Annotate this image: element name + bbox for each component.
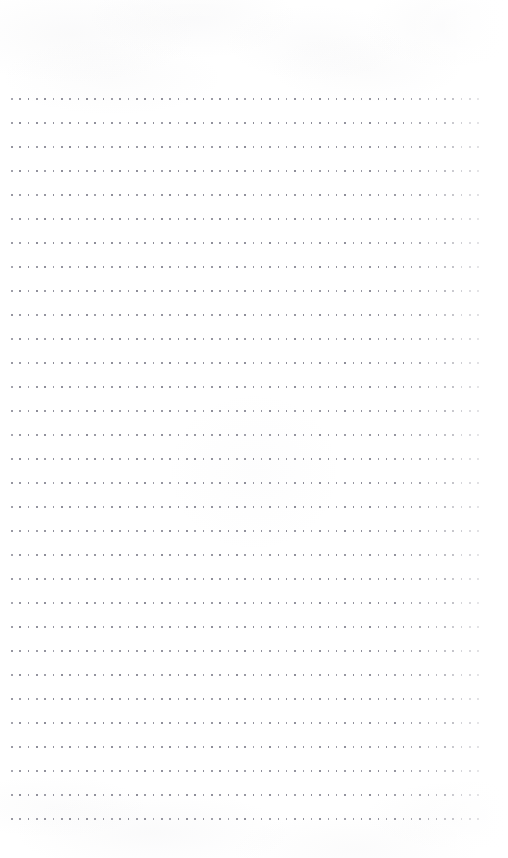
grid-dot	[61, 770, 63, 772]
left-edge-print-falloff	[0, 0, 16, 858]
grid-dot	[378, 362, 380, 364]
grid-dot	[428, 242, 430, 244]
grid-dot	[11, 218, 13, 220]
grid-dot	[444, 578, 446, 580]
grid-dot	[78, 626, 80, 628]
grid-dot	[336, 698, 338, 700]
grid-dot	[194, 242, 196, 244]
grid-dot	[328, 122, 330, 124]
grid-dot	[369, 626, 371, 628]
grid-dot	[219, 698, 221, 700]
grid-dot	[136, 410, 138, 412]
grid-dot	[428, 122, 430, 124]
grid-dot	[477, 146, 479, 148]
grid-dot	[311, 218, 313, 220]
grid-dot	[353, 266, 355, 268]
grid-dot	[286, 434, 288, 436]
grid-dot	[303, 722, 305, 724]
grid-dot	[28, 386, 30, 388]
grid-dot	[419, 338, 421, 340]
grid-dot	[61, 170, 63, 172]
grid-dot	[469, 146, 471, 148]
grid-dot	[461, 746, 463, 748]
grid-dot	[469, 818, 471, 820]
grid-dot	[53, 458, 55, 460]
grid-dot	[477, 170, 479, 172]
grid-dot	[203, 698, 205, 700]
grid-dot	[444, 386, 446, 388]
grid-dot	[94, 818, 96, 820]
grid-dot	[378, 554, 380, 556]
grid-dot	[311, 818, 313, 820]
grid-dot	[128, 818, 130, 820]
grid-dot	[469, 482, 471, 484]
grid-dot	[269, 602, 271, 604]
grid-dot	[61, 794, 63, 796]
grid-dot	[203, 554, 205, 556]
grid-dot	[119, 338, 121, 340]
grid-dot	[286, 746, 288, 748]
grid-dot	[444, 482, 446, 484]
grid-dot	[269, 770, 271, 772]
grid-dot	[111, 602, 113, 604]
grid-dot	[19, 266, 21, 268]
grid-dot	[69, 434, 71, 436]
grid-dot	[444, 338, 446, 340]
grid-dot	[161, 170, 163, 172]
grid-dot	[303, 266, 305, 268]
grid-dot	[436, 650, 438, 652]
grid-dot	[28, 722, 30, 724]
grid-dot	[361, 554, 363, 556]
grid-dot	[194, 698, 196, 700]
grid-dot	[303, 578, 305, 580]
grid-dot	[303, 506, 305, 508]
grid-dot	[452, 794, 454, 796]
grid-dot	[61, 266, 63, 268]
grid-dot	[136, 170, 138, 172]
grid-dot	[53, 338, 55, 340]
grid-dot	[236, 194, 238, 196]
grid-dot	[244, 818, 246, 820]
grid-dot	[353, 122, 355, 124]
grid-dot	[428, 674, 430, 676]
grid-dot	[461, 146, 463, 148]
grid-dot	[161, 458, 163, 460]
grid-dot	[78, 746, 80, 748]
grid-dot	[69, 674, 71, 676]
grid-dot	[269, 506, 271, 508]
grid-dot	[78, 338, 80, 340]
grid-dot	[69, 650, 71, 652]
grid-dot	[461, 98, 463, 100]
grid-dot	[436, 506, 438, 508]
grid-dot	[128, 98, 130, 100]
grid-dot	[353, 746, 355, 748]
grid-dot	[394, 338, 396, 340]
grid-dot	[369, 722, 371, 724]
grid-dot	[411, 98, 413, 100]
grid-dot	[403, 98, 405, 100]
grid-dot	[19, 458, 21, 460]
grid-dot	[44, 506, 46, 508]
grid-dot	[86, 650, 88, 652]
grid-dot	[394, 170, 396, 172]
grid-dot	[11, 434, 13, 436]
grid-dot	[236, 722, 238, 724]
grid-dot	[194, 650, 196, 652]
grid-dot	[253, 122, 255, 124]
grid-dot	[44, 362, 46, 364]
grid-dot	[269, 98, 271, 100]
grid-dot	[286, 170, 288, 172]
grid-dot	[44, 602, 46, 604]
grid-dot	[286, 722, 288, 724]
grid-dot	[236, 602, 238, 604]
grid-dot	[403, 578, 405, 580]
grid-dot	[161, 794, 163, 796]
grid-dot	[128, 146, 130, 148]
grid-dot	[419, 170, 421, 172]
grid-dot	[44, 242, 46, 244]
grid-dot	[344, 482, 346, 484]
grid-dot	[303, 434, 305, 436]
grid-dot	[119, 770, 121, 772]
grid-dot	[36, 554, 38, 556]
grid-dot	[469, 314, 471, 316]
